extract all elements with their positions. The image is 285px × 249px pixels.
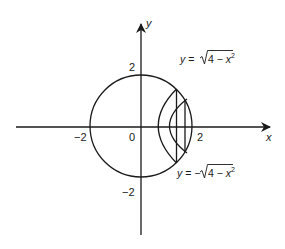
tick-origin: 0 [129, 131, 135, 143]
y-axis-label: y [145, 17, 153, 29]
svg-text:y =: y = [179, 53, 194, 65]
svg-text:4 − x2: 4 − x2 [208, 166, 235, 179]
circle-shell-diagram: −2 0 2 2 −2 x y y = 4 − x2 y = − 4 − x2 [0, 0, 285, 249]
outer-shell-arc [158, 89, 176, 163]
x-axis-label: x [265, 131, 272, 143]
tick-y-pos2: 2 [129, 61, 135, 73]
svg-text:y = −: y = − [176, 167, 200, 179]
lower-curve-equation: y = − 4 − x2 [176, 165, 235, 180]
tick-x-pos2: 2 [197, 131, 203, 143]
tick-x-neg2: −2 [74, 131, 87, 143]
svg-text:4 − x2: 4 − x2 [208, 52, 235, 65]
upper-curve-equation: y = 4 − x2 [179, 51, 235, 66]
tick-y-neg2: −2 [122, 186, 135, 198]
